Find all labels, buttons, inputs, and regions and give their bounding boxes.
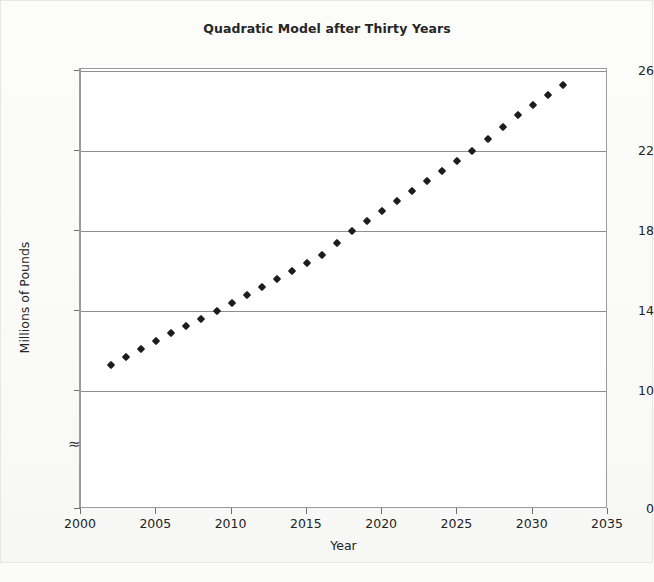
data-point: [363, 217, 371, 225]
y-tick-label: 10: [620, 383, 654, 398]
x-tick: [532, 508, 533, 514]
y-tick-label: 0: [620, 501, 654, 516]
data-point: [498, 123, 506, 131]
x-tick: [381, 508, 382, 514]
x-tick: [607, 508, 608, 514]
y-tick-label: 22: [620, 143, 654, 158]
data-point: [288, 267, 296, 275]
x-tick: [155, 508, 156, 514]
chart-page: Quadratic Model after Thirty Years Milli…: [0, 0, 654, 582]
data-point: [212, 307, 220, 315]
x-tick-label: 2005: [125, 516, 185, 531]
data-point: [378, 207, 386, 215]
y-tick-label: 18: [620, 223, 654, 238]
data-point: [333, 239, 341, 247]
data-point: [242, 291, 250, 299]
data-point: [318, 251, 326, 259]
data-point: [408, 187, 416, 195]
data-point: [423, 177, 431, 185]
x-tick-label: 2010: [201, 516, 261, 531]
data-point: [167, 329, 175, 337]
x-axis-title: Year: [80, 538, 607, 553]
data-point: [438, 167, 446, 175]
data-point: [227, 299, 235, 307]
chart-title: Quadratic Model after Thirty Years: [0, 21, 654, 36]
gridline: [81, 71, 606, 72]
y-tick-label: 14: [620, 303, 654, 318]
data-point: [544, 91, 552, 99]
gridline: [81, 151, 606, 152]
gridline: [81, 231, 606, 232]
data-point: [559, 81, 567, 89]
x-tick-label: 2030: [502, 516, 562, 531]
y-axis-spine: [79, 68, 80, 508]
data-point: [137, 345, 145, 353]
x-tick-label: 2035: [577, 516, 637, 531]
data-point: [272, 275, 280, 283]
data-point: [152, 337, 160, 345]
data-point: [468, 147, 476, 155]
x-tick: [456, 508, 457, 514]
x-tick-label: 2000: [50, 516, 110, 531]
data-point: [483, 135, 491, 143]
gridline: [81, 311, 606, 312]
y-tick-label: 26: [620, 63, 654, 78]
data-point: [348, 227, 356, 235]
y-axis-title: Millions of Pounds: [17, 188, 32, 408]
data-point: [122, 353, 130, 361]
data-point: [197, 315, 205, 323]
x-tick-label: 2025: [426, 516, 486, 531]
x-tick: [306, 508, 307, 514]
data-point: [393, 197, 401, 205]
data-point: [257, 283, 265, 291]
x-tick-label: 2015: [276, 516, 336, 531]
x-tick: [231, 508, 232, 514]
gridline: [81, 391, 606, 392]
data-point: [513, 111, 521, 119]
plot-area: [80, 68, 607, 508]
x-tick: [80, 508, 81, 514]
data-point: [182, 322, 190, 330]
data-point: [453, 157, 461, 165]
data-point: [303, 259, 311, 267]
x-tick-label: 2020: [351, 516, 411, 531]
data-point: [107, 361, 115, 369]
data-point: [528, 101, 536, 109]
